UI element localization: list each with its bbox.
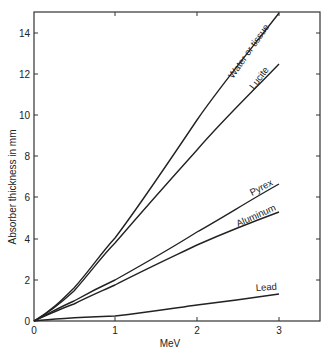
x-axis (115, 12, 279, 321)
y-tick-label: 8 (24, 151, 30, 162)
y-tick-label: 0 (24, 316, 30, 327)
label-lucite: Lucite (247, 64, 271, 91)
y-axis-title: Absorber thickness in mm (7, 129, 18, 244)
y-tick-label: 10 (19, 110, 31, 121)
label-lead: Lead (255, 281, 277, 293)
y-axis (34, 33, 320, 280)
y-tick-label: 12 (19, 69, 31, 80)
x-tick-label: 0 (31, 325, 37, 336)
y-tick-label: 6 (24, 192, 30, 203)
curve-aluminum (34, 212, 279, 321)
absorber-thickness-chart: 0 2 4 6 8 10 12 14 0 1 2 3 MeV Absorber … (0, 0, 332, 356)
x-tick-label: 2 (194, 325, 200, 336)
curve-lucite (34, 64, 279, 321)
y-tick-label: 14 (19, 28, 31, 39)
curve-pyrex (34, 184, 279, 321)
y-tick-label: 2 (24, 275, 30, 286)
x-tick-label: 3 (276, 325, 282, 336)
x-axis-title: MeV (160, 338, 181, 349)
x-tick-label: 1 (112, 325, 118, 336)
y-tick-label: 4 (24, 234, 30, 245)
curve-lead (34, 294, 279, 321)
plot-frame (34, 12, 320, 321)
